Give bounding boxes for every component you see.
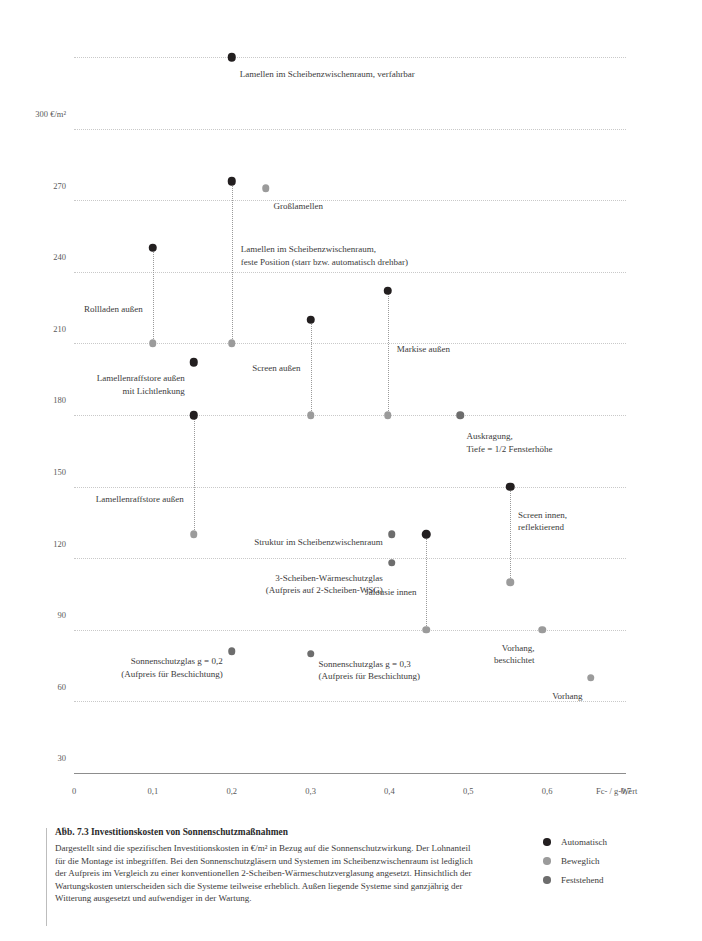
point-label: Lamellenraffstore außenmit Lichtlenkung (97, 372, 185, 397)
point-connector (426, 534, 427, 629)
x-axis-line (74, 773, 626, 774)
data-point (149, 244, 158, 253)
data-point (190, 358, 199, 367)
point-label-line: Auskragung, (466, 430, 552, 443)
y-axis-tick: 60 (58, 682, 67, 692)
point-label-line: mit Lichtlenkung (97, 385, 185, 398)
point-label-line: (Aufpreis für Beschichtung) (121, 668, 222, 681)
legend-swatch-icon (543, 838, 551, 846)
point-label: Jalousie innen (365, 586, 416, 599)
x-axis-tick: 0,3 (305, 786, 316, 796)
legend-label: Automatisch (561, 833, 607, 852)
x-axis-tick: 0,6 (542, 786, 553, 796)
y-axis-tick: 120 (53, 539, 66, 549)
point-connector (194, 415, 195, 534)
data-point (422, 530, 431, 539)
point-connector (510, 487, 511, 582)
point-connector (311, 320, 312, 415)
gridline (74, 57, 626, 58)
point-label: Lamellen im Scheibenzwischenraum,feste P… (241, 243, 408, 268)
x-axis-tick: 0 (72, 786, 76, 796)
data-point (227, 53, 236, 62)
y-axis-tick: 150 (53, 467, 66, 477)
point-label-line: Großlamellen (274, 200, 323, 213)
x-axis-tick: 0,5 (463, 786, 474, 796)
y-axis-labels: 0306090120150180210240270300 €/m² (0, 57, 70, 773)
data-point (262, 185, 270, 193)
point-label-line: Screen innen, (518, 509, 567, 522)
data-point (227, 177, 236, 186)
figure-caption: Abb. 7.3 Investitionskosten von Sonnensc… (55, 826, 475, 905)
point-connector (232, 181, 233, 343)
point-label: Lamellen im Scheibenzwischenraum, verfah… (240, 68, 415, 81)
point-label: Sonnenschutzglas g = 0,3(Aufpreis für Be… (319, 658, 420, 683)
caption-title: Abb. 7.3 Investitionskosten von Sonnensc… (55, 826, 475, 839)
data-point (307, 650, 315, 658)
data-point (388, 559, 396, 567)
point-label-line: Lamellen im Scheibenzwischenraum, (241, 243, 408, 256)
data-point (384, 287, 393, 296)
figure-page: 0306090120150180210240270300 €/m² Lamell… (0, 0, 702, 941)
data-point (306, 315, 315, 324)
point-label-line: Screen außen (252, 362, 300, 375)
data-point (388, 531, 396, 539)
point-label-line: feste Position (starr bzw. automatisch d… (241, 256, 408, 269)
point-label-line: (Aufpreis für Beschichtung) (319, 670, 420, 683)
point-label: Lamellenraffstore außen (96, 493, 184, 506)
data-point (539, 626, 547, 634)
y-axis-tick: 300 €/m² (35, 109, 66, 119)
y-axis-tick: 210 (53, 324, 66, 334)
data-point (228, 340, 236, 348)
point-label-line: Sonnenschutzglas g = 0,2 (121, 655, 222, 668)
point-label-line: Lamellen im Scheibenzwischenraum, verfah… (240, 68, 415, 81)
point-label-line: beschichtet (494, 654, 534, 667)
x-axis-tick: 0,4 (384, 786, 395, 796)
plot-area: Lamellen im Scheibenzwischenraum, verfah… (74, 57, 626, 773)
y-axis-tick: 30 (58, 753, 67, 763)
data-point (190, 531, 198, 539)
point-label: Rollladen außen (84, 303, 143, 316)
data-point (384, 411, 392, 419)
point-label-line: Vorhang (552, 690, 582, 703)
point-label-line: Vorhang, (494, 642, 534, 655)
data-point (149, 340, 157, 348)
data-point (587, 674, 595, 682)
point-connector (388, 291, 389, 415)
data-point (228, 648, 236, 656)
point-label-line: reflektierend (518, 521, 567, 534)
point-label: Markise außen (397, 343, 450, 356)
gridline (74, 272, 626, 273)
data-point (423, 626, 431, 634)
data-point (506, 578, 514, 586)
legend-label: Feststehend (561, 871, 604, 890)
point-connector (153, 248, 154, 343)
point-label-line: 3-Scheiben-Wärmeschutzglas (266, 572, 383, 585)
legend-swatch-icon (543, 857, 551, 865)
gridline (74, 701, 626, 702)
y-axis-tick: 270 (53, 181, 66, 191)
x-axis-tick: 0,1 (148, 786, 159, 796)
point-label-line: Rollladen außen (84, 303, 143, 316)
data-point (190, 411, 199, 420)
x-axis-tick: 0,2 (226, 786, 237, 796)
point-label: Screen innen,reflektierend (518, 509, 567, 534)
caption-rule (46, 828, 47, 926)
data-point (307, 411, 315, 419)
point-label: Auskragung,Tiefe = 1/2 Fensterhöhe (466, 430, 552, 455)
legend-label: Beweglich (561, 852, 600, 871)
gridline (74, 415, 626, 416)
x-axis-title: Fc- / g-Wert (596, 786, 637, 796)
point-label-line: Tiefe = 1/2 Fensterhöhe (466, 443, 552, 456)
point-label: Screen außen (252, 362, 300, 375)
gridline (74, 129, 626, 130)
gridline (74, 558, 626, 559)
point-label: Struktur im Scheibenzwischenraum (254, 536, 382, 549)
data-point (457, 411, 465, 419)
point-label-line: Sonnenschutzglas g = 0,3 (319, 658, 420, 671)
y-axis-tick: 180 (53, 395, 66, 405)
point-label-line: Struktur im Scheibenzwischenraum (254, 536, 382, 549)
point-label-line: Markise außen (397, 343, 450, 356)
y-axis-tick: 90 (58, 610, 67, 620)
gridline (74, 343, 626, 344)
data-point (506, 482, 515, 491)
